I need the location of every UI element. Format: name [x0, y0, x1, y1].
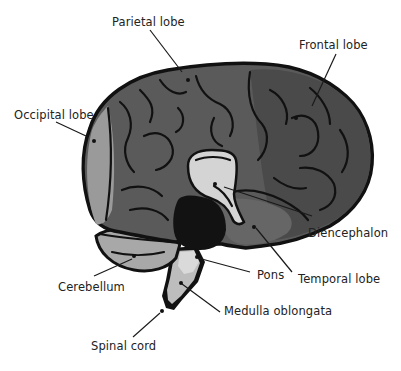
label-temporal-lobe: Temporal lobe: [297, 272, 380, 286]
label-frontal-lobe: Frontal lobe: [299, 38, 368, 52]
label-pons: Pons: [257, 268, 284, 282]
brain-diagram: Parietal lobe Frontal lobe Occipital lob…: [0, 0, 401, 371]
label-cerebellum: Cerebellum: [58, 280, 125, 294]
label-spinal-cord: Spinal cord: [91, 339, 156, 353]
label-diencephalon: Diencephalon: [308, 226, 388, 240]
label-medulla-oblongata: Medulla oblongata: [224, 304, 332, 318]
label-occipital-lobe: Occipital lobe: [14, 108, 94, 122]
label-parietal-lobe: Parietal lobe: [112, 15, 185, 29]
